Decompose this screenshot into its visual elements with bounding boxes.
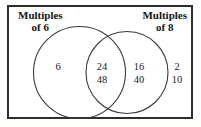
set-label-left-line1: Multiples xyxy=(18,9,63,21)
region-item: 48 xyxy=(89,73,115,86)
region-outside-both: 2 10 xyxy=(164,60,190,86)
region-item: 24 xyxy=(89,60,115,73)
set-label-right-line1: Multiples xyxy=(142,9,187,21)
region-intersection: 24 48 xyxy=(89,60,115,86)
region-item: 40 xyxy=(126,73,152,86)
region-item: 2 xyxy=(164,60,190,73)
region-left-only: 6 xyxy=(45,60,71,73)
set-label-right: Multiples of 8 xyxy=(142,10,187,33)
set-label-left: Multiples of 6 xyxy=(18,10,63,33)
region-item: 10 xyxy=(164,73,190,86)
venn-diagram-figure: Multiples of 6 Multiples of 8 6 24 48 16… xyxy=(0,0,201,127)
set-label-left-line2: of 6 xyxy=(18,22,63,34)
region-item: 6 xyxy=(45,60,71,73)
region-right-only: 16 40 xyxy=(126,60,152,86)
set-label-right-line2: of 8 xyxy=(142,22,187,34)
region-item: 16 xyxy=(126,60,152,73)
